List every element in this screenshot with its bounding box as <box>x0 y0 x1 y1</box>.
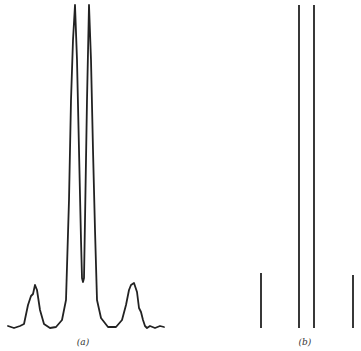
panel-a-spectrum <box>8 5 164 328</box>
figure-canvas <box>0 0 361 351</box>
spectrum-curve <box>8 5 164 328</box>
panel-b-label: (b) <box>299 337 312 347</box>
panel-b-stick-spectrum <box>261 5 353 328</box>
panel-a-label: (a) <box>77 337 89 347</box>
